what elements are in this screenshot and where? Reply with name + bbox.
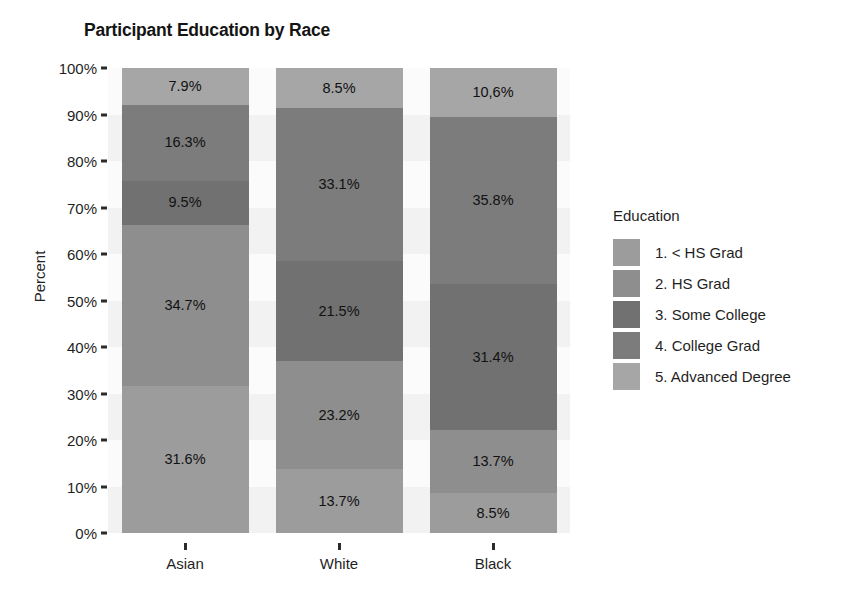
y-axis-tick-mark: [101, 532, 107, 535]
bar-segment-label: 7.9%: [168, 79, 201, 94]
y-axis-tick-label: 20%: [67, 432, 97, 449]
x-axis-tick-mark: [184, 543, 187, 550]
bar-segment-label: 8.5%: [322, 81, 355, 96]
legend-item-label: 3. Some College: [655, 306, 766, 323]
bar-segment-label: 34.7%: [164, 298, 205, 313]
bar-column-black[interactable]: 8.5%13.7%31.4%35.8%10,6%: [430, 68, 557, 533]
bar-segment-label: 8.5%: [476, 506, 509, 521]
y-axis-tick-mark: [101, 67, 107, 70]
legend-item-label: 1. < HS Grad: [655, 244, 743, 261]
bar-segment[interactable]: 8.5%: [276, 68, 403, 108]
bar-segment-label: 21.5%: [318, 304, 359, 319]
x-axis-tick-label: Asian: [166, 555, 204, 572]
y-axis-tick-mark: [101, 346, 107, 349]
bar-segment[interactable]: 31.6%: [122, 386, 249, 533]
legend-item-label: 2. HS Grad: [655, 275, 730, 292]
bar-segment-label: 23.2%: [318, 408, 359, 423]
y-axis-tick-mark: [101, 253, 107, 256]
bar-segment[interactable]: 21.5%: [276, 261, 403, 361]
bar-segment-label: 35.8%: [472, 193, 513, 208]
bar-segment-label: 31.6%: [164, 452, 205, 467]
bar-segment[interactable]: 34.7%: [122, 225, 249, 386]
y-axis-tick-label: 50%: [67, 292, 97, 309]
legend-item-label: 4. College Grad: [655, 337, 760, 354]
legend-items: 1. < HS Grad2. HS Grad3. Some College4. …: [613, 237, 791, 392]
x-axis-tick-mark: [338, 543, 341, 550]
legend-item[interactable]: 5. Advanced Degree: [613, 361, 791, 392]
bar-segment[interactable]: 16.3%: [122, 105, 249, 181]
bar-column-white[interactable]: 13.7%23.2%21.5%33.1%8.5%: [276, 68, 403, 533]
y-axis-tick-mark: [101, 392, 107, 395]
legend-item-label: 5. Advanced Degree: [655, 368, 791, 385]
bar-segment-label: 10,6%: [472, 85, 513, 100]
bar-segment-label: 13.7%: [318, 494, 359, 509]
legend-item[interactable]: 3. Some College: [613, 299, 791, 330]
bar-segment-label: 33.1%: [318, 177, 359, 192]
y-axis-tick-mark: [101, 160, 107, 163]
y-axis-tick-label: 10%: [67, 478, 97, 495]
y-axis-tick-label: 80%: [67, 153, 97, 170]
bar-segment[interactable]: 13.7%: [430, 430, 557, 494]
bar-segment[interactable]: 31.4%: [430, 284, 557, 430]
chart-figure: Participant Education by Race Percent 0%…: [0, 0, 855, 612]
y-axis-tick-mark: [101, 299, 107, 302]
legend-swatch: [613, 270, 640, 297]
y-axis-tick-label: 70%: [67, 199, 97, 216]
bar-segment-label: 9.5%: [168, 195, 201, 210]
y-axis-tick-label: 0%: [75, 525, 97, 542]
bar-segment[interactable]: 23.2%: [276, 361, 403, 469]
bar-segment[interactable]: 13.7%: [276, 469, 403, 533]
y-axis-tick-label: 40%: [67, 339, 97, 356]
chart-title: Participant Education by Race: [84, 20, 330, 41]
bar-segment-label: 13.7%: [472, 454, 513, 469]
bar-segment-label: 31.4%: [472, 350, 513, 365]
y-axis-tick-mark: [101, 439, 107, 442]
legend-swatch: [613, 332, 640, 359]
legend-title: Education: [613, 207, 791, 224]
x-axis-tick-label: White: [320, 555, 358, 572]
bar-segment[interactable]: 8.5%: [430, 493, 557, 533]
legend-swatch: [613, 363, 640, 390]
legend-swatch: [613, 239, 640, 266]
legend-swatch: [613, 301, 640, 328]
bar-segment[interactable]: 33.1%: [276, 108, 403, 262]
legend-item[interactable]: 4. College Grad: [613, 330, 791, 361]
plot-panel: 31.6%34.7%9.5%16.3%7.9%13.7%23.2%21.5%33…: [108, 68, 570, 533]
y-axis-title: Percent: [31, 232, 48, 322]
bar-segment[interactable]: 10,6%: [430, 68, 557, 117]
legend-item[interactable]: 1. < HS Grad: [613, 237, 791, 268]
x-axis-tick-mark: [492, 543, 495, 550]
x-axis-tick-label: Black: [475, 555, 512, 572]
bar-column-asian[interactable]: 31.6%34.7%9.5%16.3%7.9%: [122, 68, 249, 533]
y-axis-tick-label: 100%: [59, 60, 97, 77]
legend: Education 1. < HS Grad2. HS Grad3. Some …: [613, 207, 791, 392]
y-axis-tick-mark: [101, 113, 107, 116]
y-axis-tick-label: 90%: [67, 106, 97, 123]
y-axis-tick-mark: [101, 206, 107, 209]
y-axis-tick-label: 30%: [67, 385, 97, 402]
y-axis-tick-mark: [101, 485, 107, 488]
legend-item[interactable]: 2. HS Grad: [613, 268, 791, 299]
bar-segment[interactable]: 9.5%: [122, 181, 249, 225]
bar-segment[interactable]: 7.9%: [122, 68, 249, 105]
y-axis-tick-label: 60%: [67, 246, 97, 263]
bar-segment[interactable]: 35.8%: [430, 117, 557, 283]
bar-segment-label: 16.3%: [164, 135, 205, 150]
